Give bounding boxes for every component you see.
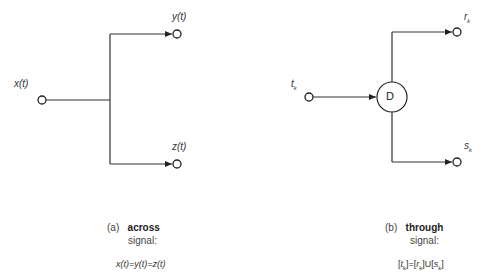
through-signal-diagram	[305, 28, 461, 166]
output-terminal-r	[453, 28, 461, 36]
input-terminal-x	[38, 96, 46, 104]
output-terminal-s	[453, 158, 461, 166]
caption-b: (b) through	[385, 222, 443, 233]
output-terminal-z	[173, 160, 181, 168]
caption-b-line2: signal:	[410, 235, 439, 246]
label-y-t: y(t)	[172, 11, 186, 22]
label-t-k: tk	[291, 78, 297, 91]
input-terminal-t	[305, 93, 313, 101]
label-r-k: rk	[464, 11, 470, 24]
equation-a: x(t)=y(t)=z(t)	[116, 259, 166, 269]
node-label-d: D	[386, 90, 394, 102]
output-terminal-y	[173, 30, 181, 38]
caption-a-line2: signal:	[128, 235, 157, 246]
label-s-k: sk	[464, 140, 472, 153]
across-signal-diagram	[38, 30, 181, 168]
caption-a: (a) across	[107, 222, 160, 233]
label-x-t: x(t)	[14, 78, 28, 89]
label-z-t: z(t)	[172, 141, 186, 152]
equation-b: [tk]=[rk]U[sk]	[398, 259, 444, 271]
